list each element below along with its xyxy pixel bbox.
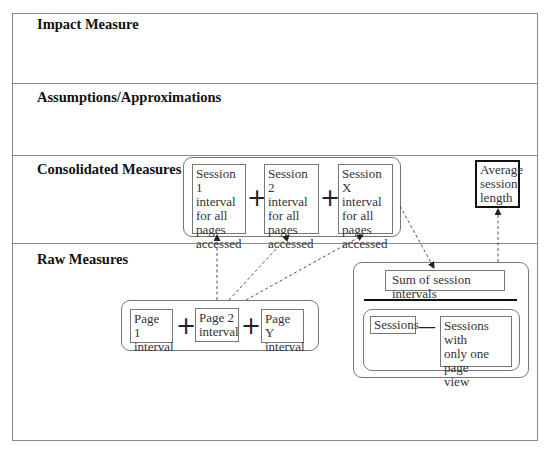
- line: interval: [342, 195, 389, 209]
- line: Session X: [342, 167, 389, 195]
- fraction-bar: [364, 299, 517, 301]
- line: pages: [268, 223, 315, 237]
- line: only one page: [444, 347, 508, 375]
- line: interval: [196, 195, 242, 209]
- line: for all: [342, 209, 389, 223]
- line: Average: [480, 163, 515, 177]
- line: for all: [268, 209, 315, 223]
- line: Page 1: [134, 312, 169, 340]
- session-2-box: Session 2 interval for all pages accesse…: [264, 164, 319, 234]
- line: Page Y: [265, 312, 300, 340]
- line: accessed: [342, 237, 389, 251]
- session-x-box: Session X interval for all pages accesse…: [338, 164, 393, 234]
- plus-operator: +: [241, 314, 261, 338]
- page-y-box: Page Y interval: [261, 309, 304, 343]
- line: Sessions with: [444, 319, 508, 347]
- sum-session-intervals-box: Sum of session intervals: [385, 270, 505, 291]
- section-title-raw: Raw Measures: [37, 251, 128, 268]
- section-title-consolidated: Consolidated Measures: [37, 161, 181, 178]
- plus-operator: +: [176, 314, 196, 338]
- line: Page 2: [199, 311, 235, 325]
- page-1-box: Page 1 interval: [130, 309, 173, 343]
- line: view: [444, 375, 508, 389]
- line: Session 2: [268, 167, 315, 195]
- page-2-box: Page 2 interval: [195, 308, 239, 342]
- single-page-sessions-box: Sessions with only one page view: [440, 316, 512, 367]
- average-session-length-box: Average session length: [475, 160, 520, 208]
- line: session: [480, 177, 515, 191]
- sessions-box: Sessions: [370, 316, 416, 334]
- line: pages: [196, 223, 242, 237]
- line: accessed: [196, 237, 242, 251]
- divider-impact-assumptions: [12, 83, 538, 84]
- line: interval: [265, 340, 300, 354]
- line: interval: [134, 340, 169, 354]
- section-title-assumptions: Assumptions/Approximations: [37, 89, 221, 106]
- section-title-impact: Impact Measure: [37, 16, 139, 33]
- line: pages: [342, 223, 389, 237]
- line: for all: [196, 209, 242, 223]
- minus-operator: —: [418, 314, 436, 338]
- line: interval: [199, 325, 235, 339]
- line: length: [480, 191, 515, 205]
- session-1-box: Session 1 interval for all pages accesse…: [192, 164, 246, 234]
- divider-assumptions-consolidated: [12, 155, 538, 156]
- line: interval: [268, 195, 315, 209]
- line: Session 1: [196, 167, 242, 195]
- line: accessed: [268, 237, 315, 251]
